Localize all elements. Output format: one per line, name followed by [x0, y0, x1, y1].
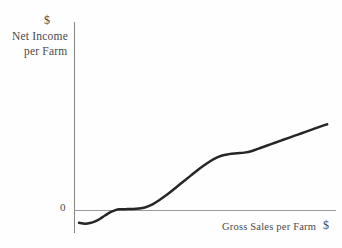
net-income-curve	[79, 124, 327, 223]
x-axis-currency-symbol: $	[323, 218, 329, 233]
chart-figure: $ Net Income per Farm 0 Gross Sales per …	[0, 0, 342, 248]
y-axis-zero-tick-label: 0	[60, 201, 66, 213]
y-axis-label-line-1: Net Income	[12, 30, 68, 42]
y-axis-currency-symbol: $	[44, 13, 50, 28]
x-axis-label: Gross Sales per Farm	[222, 221, 316, 232]
y-axis-label-line-2: per Farm	[24, 45, 67, 57]
